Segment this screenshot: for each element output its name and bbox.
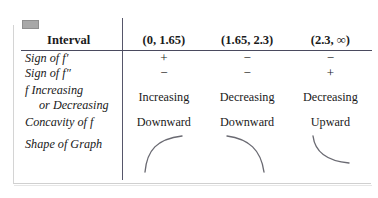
decreasing-concave-up-curve-icon xyxy=(304,134,356,174)
table-row: Sign of f″ − − + xyxy=(21,66,372,81)
cell-monotonicity-i3: Decreasing xyxy=(289,81,372,113)
cell-monotonicity-i1: Increasing xyxy=(122,81,205,113)
header-interval: Interval xyxy=(21,33,122,51)
cell-sign-f-prime-i2: − xyxy=(206,51,289,67)
table-row: Sign of f′ + − − xyxy=(21,51,372,67)
table-row: Concavity of f Downward Downward Upward xyxy=(21,113,372,132)
table-row: Shape of Graph xyxy=(21,132,372,182)
cell-shape-i3 xyxy=(289,132,372,182)
row-label-sign-of-f-double-prime: Sign of f″ xyxy=(21,66,122,81)
header-interval-3: (2.3, ∞) xyxy=(289,33,372,51)
row-label-concavity-of-f: Concavity of f xyxy=(21,113,122,132)
cell-shape-i2 xyxy=(206,132,289,182)
cell-sign-f-double-prime-i2: − xyxy=(206,66,289,81)
cell-sign-f-double-prime-i1: − xyxy=(122,66,205,81)
row-label-increasing-line1: f Increasing xyxy=(21,81,122,98)
cell-sign-f-prime-i3: − xyxy=(289,51,372,67)
cell-concavity-i3: Upward xyxy=(289,113,372,132)
increasing-concave-down-curve-icon xyxy=(138,134,190,174)
analysis-table-container: Interval (0, 1.65) (1.65, 2.3) (2.3, ∞) … xyxy=(0,0,378,198)
table-header-row: Interval (0, 1.65) (1.65, 2.3) (2.3, ∞) xyxy=(21,33,372,51)
row-label-shape-of-graph: Shape of Graph xyxy=(21,132,122,182)
row-label-sign-of-f-prime: Sign of f′ xyxy=(21,51,122,67)
cell-shape-i1 xyxy=(122,132,205,182)
cell-sign-f-prime-i1: + xyxy=(122,51,205,67)
header-interval-1: (0, 1.65) xyxy=(122,33,205,51)
table-row: f Increasing Increasing Decreasing Decre… xyxy=(21,81,372,98)
row-label-increasing-line2: or Decreasing xyxy=(21,98,122,113)
decreasing-concave-down-curve-icon xyxy=(221,134,273,174)
analysis-table: Interval (0, 1.65) (1.65, 2.3) (2.3, ∞) … xyxy=(21,33,372,182)
cell-monotonicity-i2: Decreasing xyxy=(206,81,289,113)
cell-concavity-i2: Downward xyxy=(206,113,289,132)
cell-concavity-i1: Downward xyxy=(122,113,205,132)
header-interval-2: (1.65, 2.3) xyxy=(206,33,289,51)
cell-sign-f-double-prime-i3: + xyxy=(289,66,372,81)
